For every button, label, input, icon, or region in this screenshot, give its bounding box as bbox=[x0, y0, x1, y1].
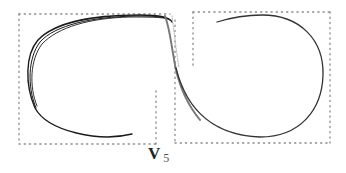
diagram-figure bbox=[0, 0, 346, 173]
label-subscript: 5 bbox=[163, 151, 169, 165]
label-variable: V bbox=[148, 144, 160, 163]
left-dotted-region bbox=[19, 14, 170, 144]
figure-label: V5 bbox=[148, 144, 169, 164]
crossing-trajectory bbox=[165, 16, 200, 120]
left-trajectory-bundle bbox=[28, 15, 172, 137]
